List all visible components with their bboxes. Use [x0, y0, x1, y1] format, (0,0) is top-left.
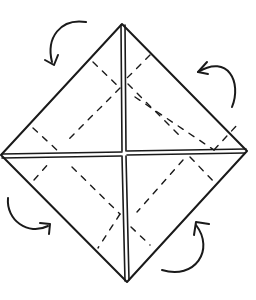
diagram-canvas [0, 0, 256, 300]
vertical-crease [121, 25, 129, 281]
arrow-bottom-right-icon [162, 222, 209, 272]
arrow-top-right-icon [198, 62, 235, 107]
arrow-bottom-left-icon [8, 198, 50, 234]
horizontal-crease [2, 149, 246, 158]
arrow-top-left-icon [45, 21, 86, 65]
